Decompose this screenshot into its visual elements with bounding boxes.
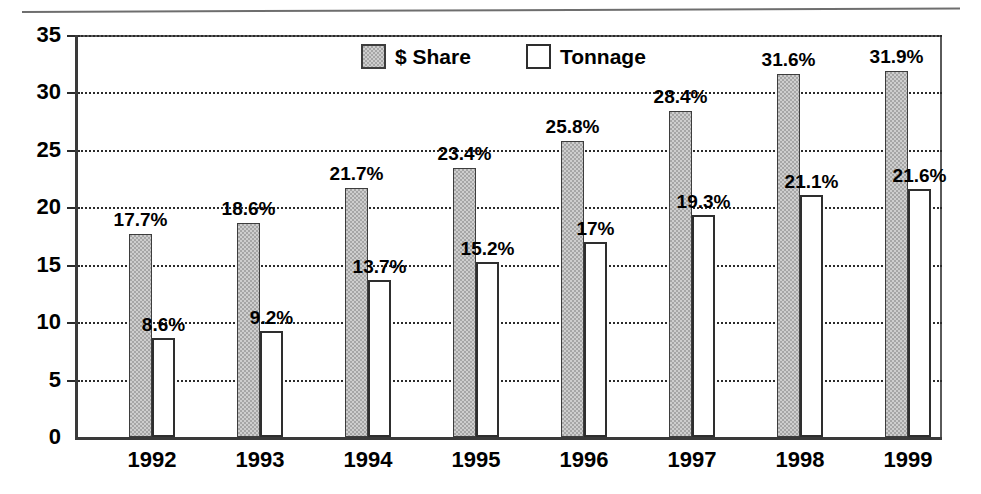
bar-group: 21.7%13.7%1994 bbox=[294, 35, 402, 437]
bar-group: 25.8%17%1996 bbox=[510, 35, 618, 437]
chart-legend: $ ShareTonnage bbox=[361, 44, 646, 69]
bar-group: 31.6%21.1%1998 bbox=[726, 35, 834, 437]
legend-item: Tonnage bbox=[526, 44, 646, 69]
x-axis-tick-label: 1995 bbox=[452, 447, 501, 473]
bar-value-label: 28.4% bbox=[654, 86, 708, 108]
bar-value-label: 15.2% bbox=[461, 238, 515, 260]
bar-group: 31.9%21.6%1999 bbox=[834, 35, 942, 437]
bar-tonnage: 21.6% bbox=[908, 189, 931, 437]
legend-label: $ Share bbox=[395, 45, 471, 69]
x-axis-tick-label: 1999 bbox=[884, 447, 933, 473]
bar-value-label: 25.8% bbox=[546, 116, 600, 138]
bar-share: 25.8% bbox=[561, 141, 584, 437]
y-axis-tick-label: 20 bbox=[37, 194, 61, 220]
bar-value-label: 18.6% bbox=[222, 198, 276, 220]
x-axis-tick-label: 1993 bbox=[236, 447, 285, 473]
y-axis-line bbox=[75, 35, 78, 440]
y-axis-tick-label: 15 bbox=[37, 252, 61, 278]
bar-value-label: 21.7% bbox=[330, 163, 384, 185]
bar-group: 28.4%19.3%1997 bbox=[618, 35, 726, 437]
bar-chart: 05101520253035 17.7%8.6%199218.6%9.2%199… bbox=[75, 35, 942, 440]
x-axis-tick-label: 1998 bbox=[776, 447, 825, 473]
bar-value-label: 17.7% bbox=[114, 209, 168, 231]
y-axis-tick-label: 5 bbox=[49, 367, 61, 393]
bar-group: 23.4%15.2%1995 bbox=[402, 35, 510, 437]
bar-value-label: 21.6% bbox=[893, 165, 947, 187]
outlined-white-swatch bbox=[526, 44, 551, 69]
bar-tonnage: 15.2% bbox=[476, 262, 499, 437]
bar-tonnage: 8.6% bbox=[152, 338, 175, 437]
bar-value-label: 8.6% bbox=[142, 314, 185, 336]
bar-value-label: 9.2% bbox=[250, 307, 293, 329]
bar-tonnage: 13.7% bbox=[368, 280, 391, 437]
bar-value-label: 31.6% bbox=[762, 49, 816, 71]
y-axis-tick-label: 25 bbox=[37, 137, 61, 163]
y-axis-tick-label: 35 bbox=[37, 22, 61, 48]
legend-label: Tonnage bbox=[560, 45, 646, 69]
y-axis-tick-label: 10 bbox=[37, 309, 61, 335]
x-axis-line bbox=[75, 437, 942, 440]
bar-tonnage: 21.1% bbox=[800, 195, 823, 437]
bar-share: 23.4% bbox=[453, 168, 476, 437]
bar-value-label: 17% bbox=[576, 218, 614, 240]
bar-value-label: 31.9% bbox=[870, 46, 924, 68]
page-horizontal-rule bbox=[22, 7, 960, 13]
bar-value-label: 23.4% bbox=[438, 143, 492, 165]
bar-tonnage: 17% bbox=[584, 242, 607, 437]
bar-share: 18.6% bbox=[237, 223, 260, 437]
plot-area: 05101520253035 17.7%8.6%199218.6%9.2%199… bbox=[78, 35, 942, 437]
bar-group: 17.7%8.6%1992 bbox=[78, 35, 186, 437]
filled-gray-swatch bbox=[361, 44, 386, 69]
x-axis-tick-label: 1994 bbox=[344, 447, 393, 473]
bar-share: 21.7% bbox=[345, 188, 368, 437]
x-axis-tick-label: 1996 bbox=[560, 447, 609, 473]
x-axis-tick-label: 1997 bbox=[668, 447, 717, 473]
y-axis-tick-label: 0 bbox=[49, 424, 61, 450]
bar-value-label: 21.1% bbox=[785, 171, 839, 193]
bar-share: 31.9% bbox=[885, 71, 908, 437]
bar-value-label: 13.7% bbox=[353, 256, 407, 278]
bar-group: 18.6%9.2%1993 bbox=[186, 35, 294, 437]
y-axis-tick-label: 30 bbox=[37, 79, 61, 105]
x-axis-tick-label: 1992 bbox=[128, 447, 177, 473]
legend-item: $ Share bbox=[361, 44, 471, 69]
bar-tonnage: 9.2% bbox=[260, 331, 283, 437]
bar-share: 28.4% bbox=[669, 111, 692, 437]
bar-share: 31.6% bbox=[777, 74, 800, 437]
bar-tonnage: 19.3% bbox=[692, 215, 715, 437]
bar-value-label: 19.3% bbox=[677, 191, 731, 213]
